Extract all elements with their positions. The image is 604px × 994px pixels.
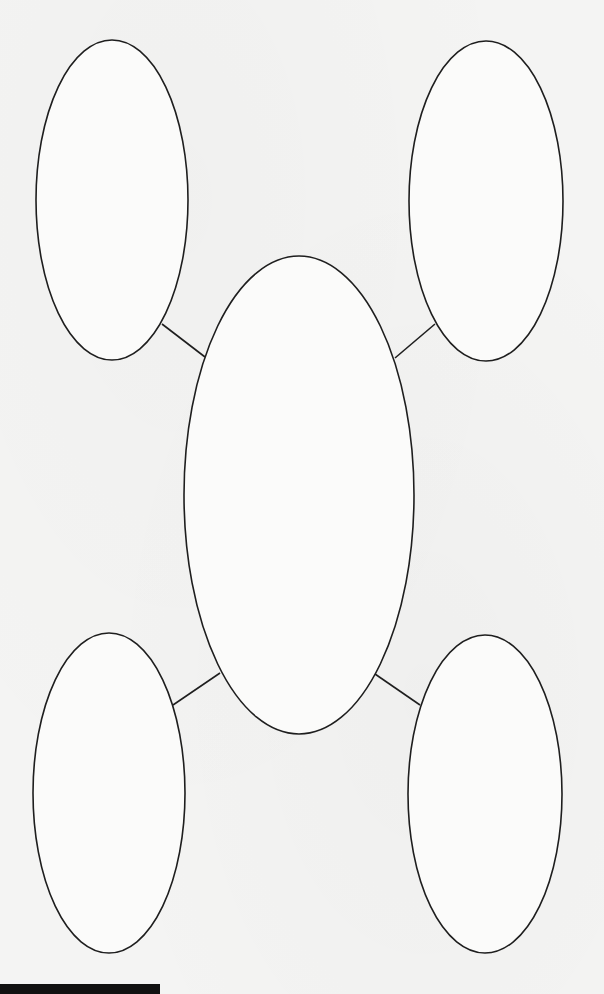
bubble-ellipse-center xyxy=(184,256,414,734)
bubbles xyxy=(33,40,563,953)
bubble-ellipse-bottom-left xyxy=(33,633,185,953)
connector-center-to-bottom-left xyxy=(173,673,220,705)
worksheet-page xyxy=(0,0,604,994)
bubble-top-left xyxy=(36,40,188,360)
bubble-center xyxy=(184,256,414,734)
bubble-bottom-right xyxy=(408,635,562,953)
footer-banner xyxy=(0,984,160,994)
bubble-ellipse-top-right xyxy=(409,41,563,361)
bubble-ellipse-top-left xyxy=(36,40,188,360)
bubble-map-diagram xyxy=(0,0,604,994)
bubble-bottom-left xyxy=(33,633,185,953)
connector-center-to-bottom-right xyxy=(375,674,420,705)
bubble-ellipse-bottom-right xyxy=(408,635,562,953)
connector-center-to-top-left xyxy=(162,324,205,357)
connector-center-to-top-right xyxy=(395,324,435,358)
bubble-top-right xyxy=(409,41,563,361)
